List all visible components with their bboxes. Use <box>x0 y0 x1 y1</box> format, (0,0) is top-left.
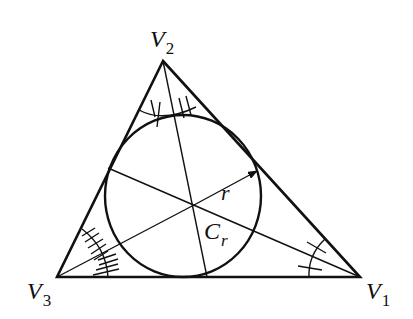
circle-letter: C <box>204 218 220 244</box>
vertex-letter: V <box>366 278 381 304</box>
vertex-subscript: 3 <box>43 291 52 310</box>
vertex-subscript: 1 <box>382 291 391 310</box>
bisector-v1 <box>108 168 360 277</box>
incircle-diagram <box>0 0 413 319</box>
bisector-v2 <box>163 61 207 277</box>
incircle <box>105 115 261 277</box>
vertex-letter: V <box>27 278 42 304</box>
vertex-subscript: 2 <box>166 39 175 58</box>
vertex-label-v2: V2 <box>150 26 174 53</box>
incircle-label: Cr <box>204 218 228 245</box>
radius-label: r <box>221 180 230 206</box>
vertex-letter: V <box>150 26 165 52</box>
circle-subscript: r <box>221 231 228 250</box>
bisector-v3 <box>57 205 194 277</box>
vertex-label-v1: V1 <box>366 278 390 305</box>
vertex-label-v3: V3 <box>27 278 51 305</box>
